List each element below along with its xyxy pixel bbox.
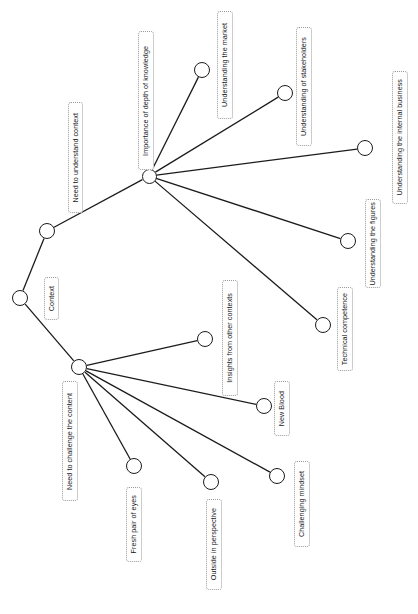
edge-importance-of-depth-of-knowledge-to-understanding-the-market [152,77,198,169]
node-label-understanding-of-stakeholders[interactable]: Understanding of stakeholders [296,27,312,146]
node-circle-technical-competence[interactable] [315,317,331,333]
node-label-text-understanding-the-figures: Understanding the figures [369,202,376,286]
node-label-outside-in-perspective[interactable]: Outside in perspective [206,499,222,590]
node-label-understanding-the-figures[interactable]: Understanding the figures [365,199,381,288]
node-circle-outside-in-perspective[interactable] [203,474,219,490]
node-circle-challenging-mindset[interactable] [269,468,285,484]
node-label-text-understanding-the-market: Understanding the market [221,23,228,107]
node-label-text-understanding-of-stakeholders: Understanding of stakeholders [300,37,307,136]
node-label-new-blood[interactable]: New Blood [274,381,290,436]
node-circle-importance-of-depth-of-knowledge[interactable] [142,169,157,184]
node-label-understanding-the-internal-business[interactable]: Understanding the internal business [392,71,408,204]
edge-need-to-challenge-the-content-to-fresh-pair-of-eyes [83,374,130,459]
node-label-technical-competence[interactable]: Technical competence [337,287,353,371]
node-label-text-context: Context [48,286,55,311]
node-label-text-new-blood: New Blood [278,391,285,426]
node-label-text-need-to-understand-context: Need to understand context [72,113,79,203]
node-label-understanding-the-market[interactable]: Understanding the market [217,11,233,119]
node-label-text-need-to-challenge-the-content: Need to challenge the content [66,393,73,490]
node-label-need-to-challenge-the-content[interactable]: Need to challenge the content [62,381,78,501]
edge-need-to-challenge-the-content-to-outside-in-perspective [85,372,205,476]
node-circle-new-blood[interactable] [256,398,272,414]
node-circle-understanding-the-market[interactable] [194,62,210,78]
edge-context-to-need-to-understand-context [23,238,44,290]
node-label-text-understanding-the-internal-business: Understanding the internal business [396,79,403,195]
node-label-challenging-mindset[interactable]: Challenging mindset [294,461,310,547]
node-circle-need-to-challenge-the-content[interactable] [71,359,87,375]
node-label-insights-from-other-contexts[interactable]: Insights from other contexts [222,280,238,396]
node-circle-insights-from-other-contexts[interactable] [197,331,213,347]
node-label-text-importance-of-depth-of-knowledge: Importance of depth of knowledge [142,46,149,156]
node-circle-fresh-pair-of-eyes[interactable] [126,458,142,474]
node-label-text-insights-from-other-contexts: Insights from other contexts [226,293,233,383]
node-label-text-technical-competence: Technical competence [341,293,348,365]
node-label-context[interactable]: Context [44,277,59,320]
node-circle-context[interactable] [12,290,28,306]
edge-importance-of-depth-of-knowledge-to-understanding-the-figures [156,178,340,238]
node-label-text-fresh-pair-of-eyes: Fresh pair of eyes [130,495,137,553]
node-label-text-outside-in-perspective: Outside in perspective [210,508,217,580]
node-label-text-challenging-mindset: Challenging mindset [298,471,305,537]
node-label-importance-of-depth-of-knowledge[interactable]: Importance of depth of knowledge [138,31,154,170]
edge-need-to-challenge-the-content-to-insights-from-other-contexts [87,341,197,366]
node-circle-understanding-of-stakeholders[interactable] [277,85,293,101]
node-circle-understanding-the-figures[interactable] [340,233,356,249]
node-circle-need-to-understand-context[interactable] [39,223,55,239]
node-circle-understanding-the-internal-business[interactable] [357,140,373,156]
node-label-need-to-understand-context[interactable]: Need to understand context [68,102,83,213]
diagram-canvas: ContextNeed to understand contextImporta… [0,0,418,614]
edge-need-to-challenge-the-content-to-challenging-mindset [86,371,270,472]
node-label-fresh-pair-of-eyes[interactable]: Fresh pair of eyes [126,487,142,562]
